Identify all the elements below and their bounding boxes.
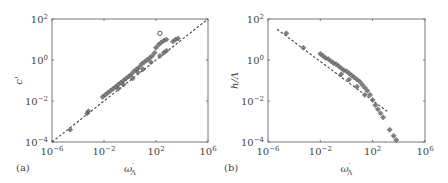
data-point-marker [68, 127, 73, 132]
x-tick-label: 10−6 [256, 145, 280, 157]
x-axis-title: ω′Λ [124, 162, 137, 177]
y-tick-label: 10−2 [25, 95, 48, 107]
data-point-marker [375, 107, 380, 112]
x-tick-label: 102 [147, 145, 164, 157]
panel-a: 10−610−210210610210010−210−4ω′Λc' (a) [0, 0, 224, 183]
data-point-marker [301, 45, 306, 50]
y-tick-label: 102 [247, 13, 264, 25]
data-point-marker [373, 103, 378, 108]
data-point-marker [381, 115, 386, 120]
y-axis-title: h/Λ [229, 72, 240, 89]
x-tick-label: 10−2 [309, 145, 332, 157]
data-point-marker [158, 31, 162, 35]
panel-b-label: (b) [224, 162, 238, 173]
y-tick-label: 102 [31, 13, 48, 25]
y-tick-label: 100 [31, 54, 48, 66]
x-tick-label: 10−6 [40, 145, 64, 157]
data-point-marker [362, 92, 367, 97]
chart-b-plot: 10−610−210210610210010−210−4ω′Λh/Λ [216, 0, 448, 183]
data-point-marker [370, 97, 375, 102]
x-tick-label: 102 [364, 145, 381, 157]
data-point-marker [387, 127, 392, 132]
x-tick-label: 106 [199, 145, 217, 157]
reference-dashed-line [277, 29, 387, 111]
y-axis-title: c' [13, 76, 24, 84]
panel-a-label: (a) [16, 162, 30, 173]
x-axis-title: ω′Λ [341, 162, 354, 177]
panel-b: 10−610−210210610210010−210−4ω′Λh/Λ (b) [216, 0, 440, 183]
data-point-marker [391, 133, 396, 138]
x-tick-label: 10−2 [92, 145, 115, 157]
chart-a-plot: 10−610−210210610210010−210−4ω′Λc' [0, 0, 224, 183]
x-tick-label: 106 [416, 145, 434, 157]
reference-dashed-line [52, 19, 208, 142]
y-tick-label: 100 [247, 54, 264, 66]
data-point-marker [378, 111, 383, 116]
y-tick-label: 10−2 [241, 95, 264, 107]
data-point-marker [354, 84, 359, 89]
